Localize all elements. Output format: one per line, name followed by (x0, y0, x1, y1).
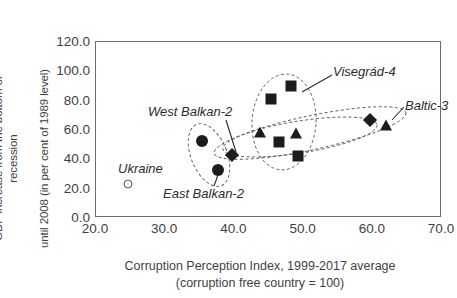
data-point-visegrad-4 (266, 94, 277, 105)
cropped-caption-strip (130, 0, 450, 9)
y-tick-label: 20.0 (34, 180, 90, 195)
data-point-baltic-3 (254, 126, 266, 137)
x-tick-label: 20.0 (82, 221, 108, 236)
x-tick-label: 70.0 (428, 221, 454, 236)
y-tick-label: 40.0 (34, 151, 90, 166)
annotation-visegrad-4: Visegrád-4 (333, 64, 396, 79)
scatter-chart-figure: GDP increase from the bottom of recessio… (0, 0, 457, 298)
data-point-east-balkan-2 (212, 164, 224, 176)
annotation-ukraine: Ukraine (118, 161, 163, 176)
y-axis-tick-labels: 0.0 20.0 40.0 60.0 80.0 100.0 120.0 (30, 0, 90, 298)
y-axis-title-line1: GDP increase from the bottom of recessio… (0, 51, 22, 266)
data-point-visegrad-4 (293, 151, 304, 162)
x-tick-label: 60.0 (359, 221, 385, 236)
x-tick-label: 30.0 (151, 221, 177, 236)
y-tick-label: 60.0 (34, 122, 90, 137)
x-axis-title-line2: (corruption free country = 100) (70, 275, 450, 292)
data-point-baltic-3 (380, 119, 392, 130)
annotation-east-balkan-2: East Balkan-2 (163, 186, 244, 201)
y-tick-label: 120.0 (34, 34, 90, 49)
x-tick-label: 50.0 (289, 221, 315, 236)
data-point-visegrad-4 (274, 137, 285, 148)
data-point-visegrad-4 (286, 81, 297, 92)
data-point-baltic-3 (290, 127, 302, 138)
data-point-ukraine (124, 180, 133, 189)
x-axis-title: Corruption Perception Index, 1999-2017 a… (70, 258, 450, 292)
data-point-east-balkan-2 (196, 135, 208, 147)
annotation-west-balkan-2: West Balkan-2 (148, 104, 232, 119)
x-tick-label: 40.0 (220, 221, 246, 236)
y-tick-label: 100.0 (34, 63, 90, 78)
x-axis-title-line1: Corruption Perception Index, 1999-2017 a… (70, 258, 450, 275)
annotation-baltic-3: Baltic-3 (405, 98, 448, 113)
y-tick-label: 80.0 (34, 92, 90, 107)
